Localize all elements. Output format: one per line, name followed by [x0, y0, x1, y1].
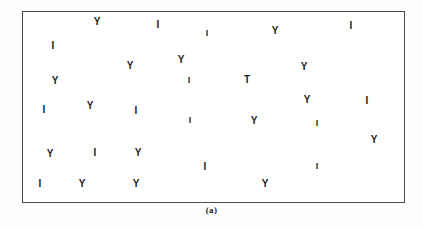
scatter-marker-y: Y: [178, 55, 185, 65]
figure-caption: (a): [0, 205, 423, 215]
scatter-marker-i: I: [189, 116, 192, 125]
scatter-marker-t: T: [244, 75, 250, 85]
scatter-marker-y: Y: [133, 179, 140, 189]
scatter-marker-y: Y: [135, 148, 142, 158]
scatter-marker-y: Y: [52, 76, 59, 86]
scatter-marker-y: Y: [79, 179, 86, 189]
scatter-marker-i: I: [316, 162, 319, 171]
scatter-marker-y: Y: [87, 101, 94, 111]
scatter-marker-y: Y: [371, 135, 378, 145]
scatter-marker-i: I: [157, 20, 160, 30]
scatter-marker-y: Y: [262, 179, 269, 189]
scatter-marker-i: I: [206, 29, 209, 38]
scatter-marker-i: I: [94, 148, 97, 158]
figure-container: YIIYIIYYYYITYIIYIIYIYYIYIIIYYY (a): [0, 0, 423, 229]
scatter-marker-i: I: [135, 106, 138, 116]
scatter-marker-i: I: [52, 41, 55, 51]
scatter-marker-y: Y: [301, 62, 308, 72]
scatter-marker-y: Y: [251, 116, 258, 126]
scatter-marker-y: Y: [94, 17, 101, 27]
scatter-marker-i: I: [43, 105, 46, 115]
scatter-marker-i: I: [350, 21, 353, 31]
scatter-marker-y: Y: [47, 149, 54, 159]
scatter-marker-y: Y: [127, 61, 134, 71]
scatter-marker-i: I: [316, 119, 319, 128]
scatter-marker-i: I: [366, 96, 369, 106]
scatter-marker-y: Y: [272, 26, 279, 36]
scatter-marker-i: I: [39, 179, 42, 189]
scatter-marker-i: I: [204, 162, 207, 172]
scatter-marker-y: Y: [304, 95, 311, 105]
scatter-marker-i: I: [188, 76, 191, 85]
plot-frame: YIIYIIYYYYITYIIYIIYIYYIYIIIYYY: [22, 11, 405, 203]
